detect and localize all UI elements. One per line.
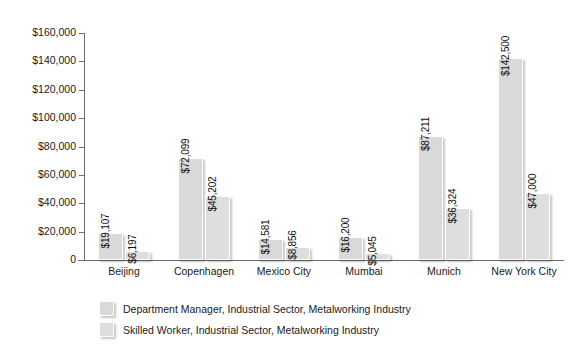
legend-item-label: Department Manager, Industrial Sector, M… xyxy=(123,303,411,315)
bar-value-label: $16,200 xyxy=(340,218,351,253)
y-axis-tick-label: $100,000 xyxy=(8,111,76,123)
bar[interactable]: $142,500 xyxy=(498,58,523,260)
bar-value-label: $19,107 xyxy=(100,214,111,249)
bar[interactable]: $45,202 xyxy=(205,196,230,260)
bar-value-label: $6,197 xyxy=(127,235,138,264)
bar-value-label: $14,581 xyxy=(260,220,271,255)
y-axis-tick-label: $140,000 xyxy=(8,54,76,66)
bar-chart: $160,000$140,000$120,000$100,000$80,000$… xyxy=(0,0,573,346)
bar[interactable]: $36,324 xyxy=(445,208,470,260)
bar-value-label: $87,211 xyxy=(420,117,431,151)
x-axis-category-label: Mexico City xyxy=(244,265,324,277)
legend-item-label: Skilled Worker, Industrial Sector, Metal… xyxy=(123,324,379,336)
bar-value-label: $47,000 xyxy=(527,174,538,209)
bar-value-label: $45,202 xyxy=(207,177,218,212)
bar-group: $142,500$47,000 xyxy=(484,33,564,260)
x-axis-category-label: Mumbai xyxy=(324,265,404,277)
bar-group: $72,099$45,202 xyxy=(164,33,244,260)
legend-item: Department Manager, Industrial Sector, M… xyxy=(99,298,519,319)
legend-item: Skilled Worker, Industrial Sector, Metal… xyxy=(99,319,519,340)
bar[interactable]: $6,197 xyxy=(125,251,150,260)
bar[interactable]: $72,099 xyxy=(178,158,203,260)
x-axis-line xyxy=(78,260,564,261)
y-axis-tick-label: $160,000 xyxy=(8,26,76,38)
y-axis-tick-label: 0 xyxy=(8,253,76,265)
chart-legend: Department Manager, Industrial Sector, M… xyxy=(99,298,519,340)
bar[interactable]: $47,000 xyxy=(525,193,550,260)
plot-area: $19,107$6,197$72,099$45,202$14,581$8,856… xyxy=(84,33,564,260)
bar-group: $87,211$36,324 xyxy=(404,33,484,260)
y-axis-tick xyxy=(79,260,84,261)
legend-swatch-icon xyxy=(99,322,114,337)
x-axis-category-label: New York City xyxy=(484,265,564,277)
bar[interactable]: $16,200 xyxy=(338,237,363,260)
y-axis-tick-label: $40,000 xyxy=(8,196,76,208)
bar-group: $14,581$8,856 xyxy=(244,33,324,260)
bar[interactable]: $5,045 xyxy=(365,253,390,260)
x-axis-category-label: Munich xyxy=(404,265,484,277)
bar[interactable]: $87,211 xyxy=(418,136,443,260)
legend-swatch-icon xyxy=(99,301,114,316)
y-axis-tick-label: $120,000 xyxy=(8,83,76,95)
bar-value-label: $142,500 xyxy=(500,36,511,76)
y-axis-tick-label: $60,000 xyxy=(8,168,76,180)
bar-group: $19,107$6,197 xyxy=(84,33,164,260)
bar-group: $16,200$5,045 xyxy=(324,33,404,260)
bar-value-label: $5,045 xyxy=(367,236,378,265)
bar-value-label: $72,099 xyxy=(180,138,191,173)
bar-value-label: $8,856 xyxy=(287,231,298,260)
y-axis-tick-label: $20,000 xyxy=(8,225,76,237)
x-axis-category-label: Copenhagen xyxy=(164,265,244,277)
bar[interactable]: $19,107 xyxy=(98,233,123,260)
bar[interactable]: $8,856 xyxy=(285,247,310,260)
bar-value-label: $36,324 xyxy=(447,189,458,224)
x-axis-category-label: Beijing xyxy=(84,265,164,277)
y-axis-tick-label: $80,000 xyxy=(8,140,76,152)
bar[interactable]: $14,581 xyxy=(258,239,283,260)
